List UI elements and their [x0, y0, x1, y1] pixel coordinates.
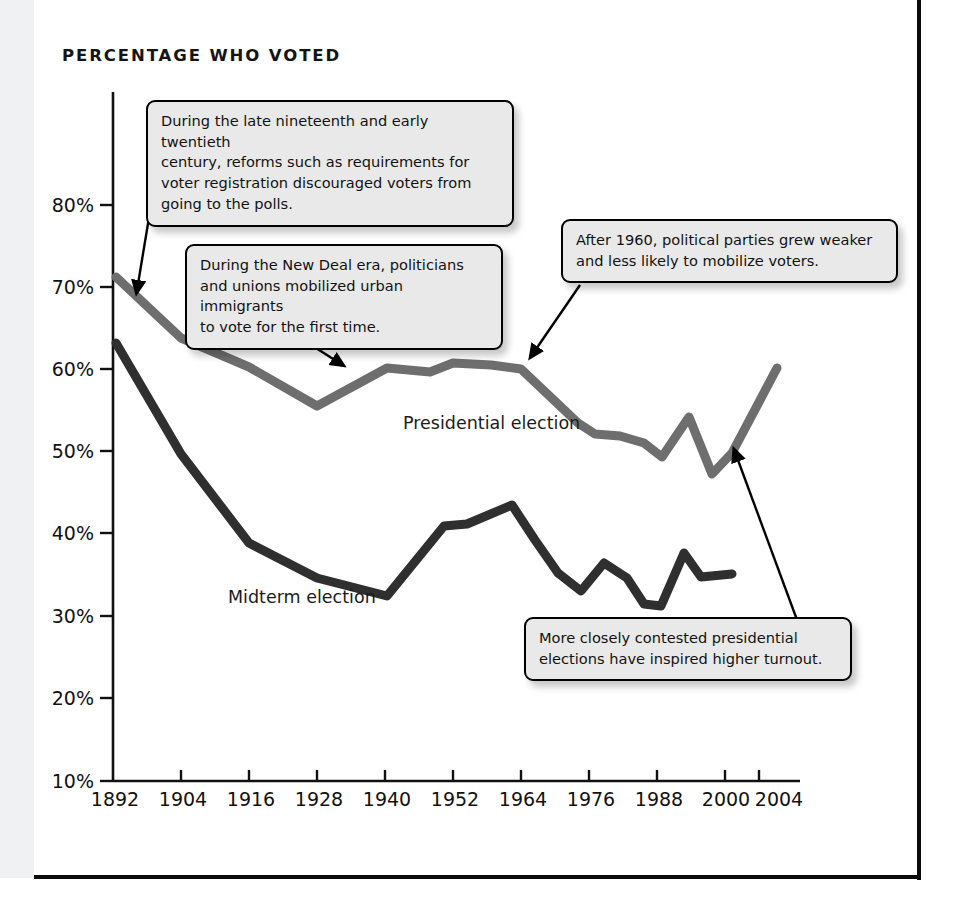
callout-line: During the New Deal era, politicians: [200, 255, 489, 276]
x-axis-ticks: [113, 770, 759, 781]
y-tick-label-10: 10%: [52, 770, 94, 792]
x-axis-labels: 1892 1904 1916 1928 1940 1952 1964 1976 …: [91, 788, 803, 810]
y-axis-labels: 80% 70% 60% 50% 40% 30% 20% 10%: [52, 194, 94, 792]
callout-registration-reforms: During the late nineteenth and early twe…: [146, 100, 514, 227]
series-label-midterm: Midterm election: [228, 587, 376, 607]
y-tick-label-50: 50%: [52, 440, 94, 462]
chart-page: PERCENTAGE WHO VOTED 80% 70% 60% 50% 40%…: [0, 0, 953, 911]
arrow-to-contested-elections: [735, 452, 800, 628]
callout-line: and less likely to mobilize voters.: [576, 251, 884, 272]
callout-line: elections have inspired higher turnout.: [539, 649, 838, 670]
y-tick-label-30: 30%: [52, 605, 94, 627]
x-tick-label-1928: 1928: [295, 788, 343, 810]
y-axis-ticks: [100, 205, 113, 781]
x-tick-label-1940: 1940: [363, 788, 411, 810]
callout-line: century, reforms such as requirements fo…: [161, 152, 500, 173]
callout-line: and unions mobilized urban immigrants: [200, 276, 489, 317]
x-tick-label-2000: 2000: [702, 788, 750, 810]
y-tick-label-40: 40%: [52, 522, 94, 544]
x-tick-label-1952: 1952: [431, 788, 479, 810]
x-tick-label-1916: 1916: [227, 788, 275, 810]
series-line-midterm: [116, 343, 732, 606]
callout-line: After 1960, political parties grew weake…: [576, 230, 884, 251]
callout-line: voter registration discouraged voters fr…: [161, 173, 500, 194]
y-tick-label-80: 80%: [52, 194, 94, 216]
x-tick-label-1976: 1976: [567, 788, 615, 810]
y-tick-label-70: 70%: [52, 276, 94, 298]
callout-contested-elections: More closely contested presidential elec…: [524, 617, 852, 681]
arrow-to-after-1960: [532, 285, 580, 355]
x-tick-label-1964: 1964: [499, 788, 547, 810]
callout-line: More closely contested presidential: [539, 628, 838, 649]
x-tick-label-1904: 1904: [159, 788, 207, 810]
y-tick-label-20: 20%: [52, 687, 94, 709]
callout-after-1960: After 1960, political parties grew weake…: [561, 219, 898, 283]
x-tick-label-2004: 2004: [755, 788, 803, 810]
x-tick-label-1892: 1892: [91, 788, 139, 810]
callout-line: During the late nineteenth and early twe…: [161, 111, 500, 152]
y-tick-label-60: 60%: [52, 358, 94, 380]
x-tick-label-1988: 1988: [635, 788, 683, 810]
callout-new-deal: During the New Deal era, politicians and…: [185, 244, 503, 350]
callout-line: going to the polls.: [161, 194, 500, 215]
callout-line: to vote for the first time.: [200, 317, 489, 338]
series-label-presidential: Presidential election: [403, 413, 580, 433]
